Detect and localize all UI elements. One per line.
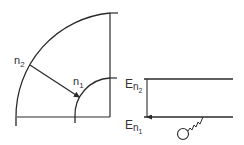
left-diagram: n2 n1 xyxy=(14,13,118,126)
inner-arc-label: n1 xyxy=(73,75,84,90)
zigzag-wave-icon xyxy=(188,117,203,131)
outer-arc-n2 xyxy=(16,13,110,126)
electron-icon xyxy=(178,117,204,140)
upper-level-label: En2 xyxy=(125,77,143,94)
right-diagram: En2 En1 xyxy=(125,77,233,140)
lower-level-label: En1 xyxy=(125,118,143,135)
refraction-energy-level-diagram: n2 n1 En2 En1 xyxy=(0,0,244,145)
ray-arrow xyxy=(30,65,79,97)
outer-arc-label: n2 xyxy=(14,54,25,69)
